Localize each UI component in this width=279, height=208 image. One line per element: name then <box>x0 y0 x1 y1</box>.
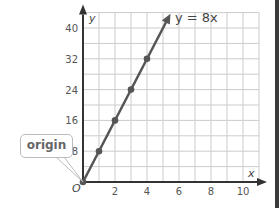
data-point <box>112 117 119 124</box>
origin-callout: origin <box>20 134 73 158</box>
x-tick-label: 8 <box>208 186 214 197</box>
x-tick-label: 4 <box>144 186 150 197</box>
x-axis-label: x <box>247 167 255 180</box>
callout-pointer <box>56 157 83 182</box>
line-chart: 246810816243240 x y O y = 8x <box>0 0 279 208</box>
y-tick-label: 40 <box>65 23 78 34</box>
data-point <box>144 56 151 63</box>
data-point <box>128 86 135 93</box>
x-tick-label: 10 <box>237 186 250 197</box>
data-series <box>80 14 171 186</box>
x-tick-label: 6 <box>176 186 182 197</box>
equation-label: y = 8x <box>175 10 218 25</box>
y-tick-label: 16 <box>65 115 78 126</box>
y-axis-label: y <box>88 12 96 25</box>
y-tick-label: 24 <box>65 85 78 96</box>
x-tick-label: 2 <box>112 186 118 197</box>
data-point <box>96 148 103 155</box>
page-edge-bar <box>275 0 279 208</box>
origin-label: O <box>72 182 81 195</box>
y-tick-label: 32 <box>65 54 78 65</box>
grid <box>83 13 259 182</box>
tick-labels: 246810816243240 <box>65 23 249 197</box>
axes <box>79 5 267 186</box>
